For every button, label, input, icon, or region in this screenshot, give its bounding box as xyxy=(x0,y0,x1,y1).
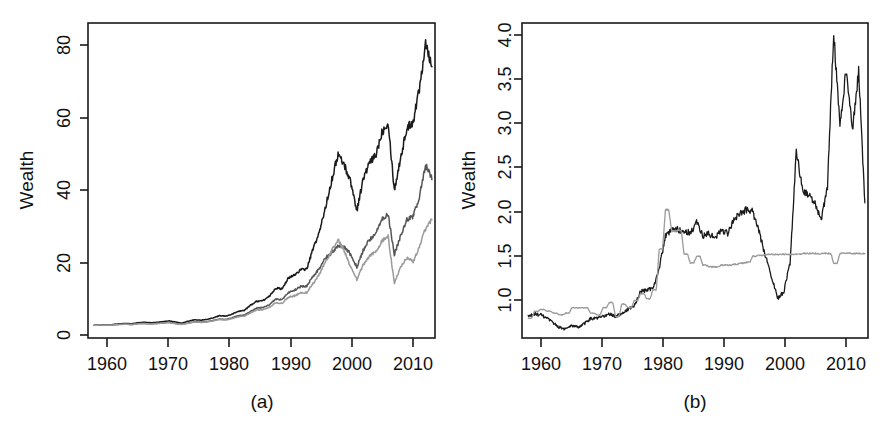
line-series-dark xyxy=(528,36,865,330)
panel-b-caption: (b) xyxy=(683,391,706,412)
panel-a-ylabel: Wealth xyxy=(16,151,37,210)
panel-b-ylabel: Wealth xyxy=(458,151,479,210)
panel-a-xtick-1990: 1990 xyxy=(271,354,311,374)
panel-b-ytick-1-0: 1.0 xyxy=(495,287,515,312)
panel-b-plot: Wealth 1.0 1.5 2.0 2.5 3.0 3.5 4.0 xyxy=(447,0,894,429)
panel-b-xtick-1970: 1970 xyxy=(582,354,622,374)
panel-b-xtick-1990: 1990 xyxy=(704,354,744,374)
panel-a-plot-box xyxy=(88,23,435,338)
panel-b-series-group xyxy=(528,36,865,330)
line-series-dark xyxy=(94,40,432,326)
panel-a-plot: Wealth 0 20 40 60 80 1960 1970 1980 1 xyxy=(0,0,447,429)
line-series-light xyxy=(94,219,432,325)
line-series-mid xyxy=(94,164,432,325)
panel-a-xtick-1970: 1970 xyxy=(148,354,188,374)
panel-b-ytick-1-5: 1.5 xyxy=(495,243,515,268)
line-series-light xyxy=(528,209,865,318)
panel-a-ytick-0: 0 xyxy=(54,330,74,340)
panel-a-xtick-1980: 1980 xyxy=(209,354,249,374)
panel-a-series-group xyxy=(94,40,432,326)
panel-a-ytick-40: 40 xyxy=(54,180,74,200)
panel-b-ytick-3-0: 3.0 xyxy=(495,110,515,135)
panel-b-xtick-2010: 2010 xyxy=(826,354,866,374)
panel-a: Wealth 0 20 40 60 80 1960 1970 1980 1 xyxy=(0,0,447,429)
panel-b-xtick-2000: 2000 xyxy=(765,354,805,374)
panel-b-ytick-3-5: 3.5 xyxy=(495,66,515,91)
panel-b-ytick-2-0: 2.0 xyxy=(495,199,515,224)
panel-a-ytick-20: 20 xyxy=(54,253,74,273)
panel-b-xtick-1980: 1980 xyxy=(643,354,683,374)
panel-a-caption: (a) xyxy=(250,391,273,412)
panel-a-ytick-60: 60 xyxy=(54,108,74,128)
panel-a-xtick-1960: 1960 xyxy=(87,354,127,374)
panel-b-ytick-4-0: 4.0 xyxy=(495,22,515,47)
panel-b-ytick-2-5: 2.5 xyxy=(495,154,515,179)
panel-a-xtick-2010: 2010 xyxy=(393,354,433,374)
panel-b-plot-box xyxy=(522,23,868,338)
panel-b-xtick-1960: 1960 xyxy=(521,354,561,374)
panel-a-xtick-2000: 2000 xyxy=(332,354,372,374)
panel-a-ytick-80: 80 xyxy=(54,35,74,55)
two-panel-figure: Wealth 0 20 40 60 80 1960 1970 1980 1 xyxy=(0,0,894,429)
panel-b: Wealth 1.0 1.5 2.0 2.5 3.0 3.5 4.0 xyxy=(447,0,894,429)
